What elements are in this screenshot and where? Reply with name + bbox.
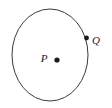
center-point-label: P [40, 52, 48, 64]
circle-diagram-canvas: P Q [0, 0, 112, 108]
geometry-figure: P Q [0, 0, 112, 108]
circle-outline [12, 9, 88, 101]
center-point-dot [54, 57, 59, 62]
circumference-point-label: Q [92, 34, 100, 46]
circumference-point-dot [84, 36, 89, 41]
